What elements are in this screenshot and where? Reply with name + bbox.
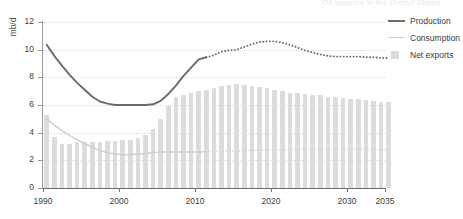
legend-label-net-exports: Net exports: [410, 50, 453, 60]
x-tick-label: 2010: [175, 196, 215, 206]
net-exports-swatch-key: [388, 50, 405, 60]
production-line-key: [388, 16, 405, 26]
consumption-line: [47, 119, 207, 155]
y-tick-label: 12: [14, 16, 34, 26]
production-line-projected: [206, 41, 388, 58]
x-tick-mark: [195, 188, 196, 192]
consumption-line-projected: [206, 149, 388, 152]
x-tick-label: 1990: [23, 196, 63, 206]
consumption-line-key: [388, 33, 405, 43]
x-tick-label: 2020: [251, 196, 291, 206]
y-tick-label: 0: [14, 182, 34, 192]
legend-label-consumption: Consumption: [410, 33, 460, 43]
series-lines: [43, 22, 385, 188]
x-axis-line: [43, 188, 386, 189]
y-tick-label: 8: [14, 71, 34, 81]
legend-item-consumption[interactable]: Consumption: [388, 29, 460, 46]
oil-balance-chart: Oil balance in the United States mb/d 02…: [0, 0, 463, 219]
y-tick-label: 6: [14, 99, 34, 109]
bar: [386, 102, 391, 188]
x-tick-mark: [119, 188, 120, 192]
y-tick-label: 4: [14, 127, 34, 137]
x-tick-label: 2035: [365, 196, 405, 206]
production-line: [47, 45, 207, 105]
y-tick-label: 2: [14, 154, 34, 164]
legend-label-production: Production: [410, 16, 451, 26]
x-tick-label: 2030: [327, 196, 367, 206]
legend-item-production[interactable]: Production: [388, 12, 460, 29]
y-axis-label: mb/d: [8, 7, 18, 47]
y-tick-label: 10: [14, 44, 34, 54]
chart-title-fragment: Oil balance in the United States: [322, 0, 442, 9]
x-tick-mark: [43, 188, 44, 192]
plot-area: [43, 22, 385, 188]
x-tick-mark: [347, 188, 348, 192]
legend-item-net-exports[interactable]: Net exports: [388, 46, 460, 63]
x-tick-mark: [271, 188, 272, 192]
x-tick-mark: [385, 188, 386, 192]
chart-legend: Production Consumption Net exports: [388, 12, 460, 63]
x-tick-label: 2000: [99, 196, 139, 206]
